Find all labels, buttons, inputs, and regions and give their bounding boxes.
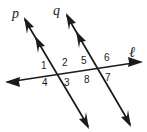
angle-label-2: 2 [62, 58, 68, 68]
line-label-p: p [12, 7, 19, 21]
angle-label-5: 5 [81, 56, 87, 66]
line-p-group [24, 17, 89, 129]
line-l-left-arrowhead [5, 77, 20, 87]
angle-label-1: 1 [41, 61, 47, 71]
line-q-group [66, 13, 131, 127]
line-l-segment [8, 62, 140, 82]
line-l-group [5, 57, 143, 87]
line-label-l: ℓ [129, 45, 135, 60]
angle-label-8: 8 [84, 75, 90, 85]
angle-label-3: 3 [64, 78, 70, 88]
angle-label-6: 6 [104, 53, 110, 63]
angle-label-7: 7 [105, 73, 111, 83]
angle-label-4: 4 [42, 78, 48, 88]
geometry-canvas [0, 0, 147, 132]
geometry-figure: p q ℓ 1 2 3 4 5 6 7 8 [0, 0, 147, 132]
line-label-q: q [53, 4, 60, 18]
